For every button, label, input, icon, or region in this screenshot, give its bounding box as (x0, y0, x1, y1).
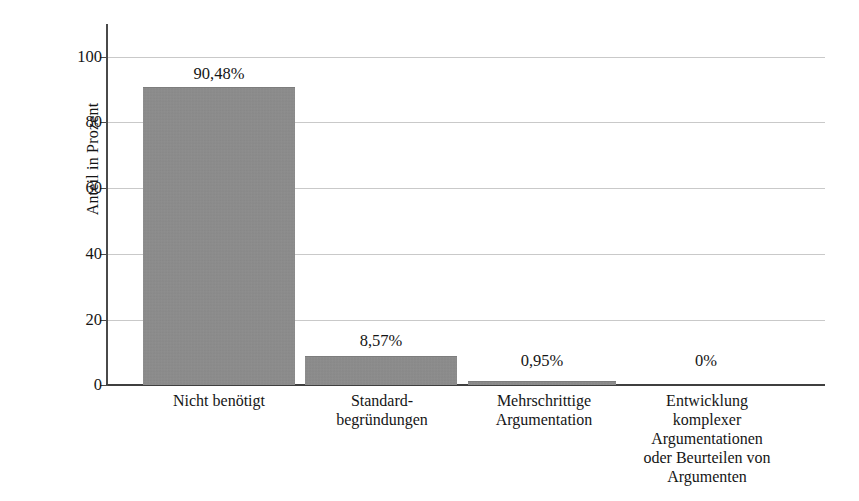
y-tick-label-40: 40 (56, 246, 102, 263)
value-label-nicht-benoetigt: 90,48% (143, 66, 295, 83)
x-category-line: komplexer (618, 411, 796, 430)
x-category-line: Mehrschrittige (458, 392, 630, 411)
x-category-line: Argumentation (458, 411, 630, 430)
value-label-standardbegruendungen: 8,57% (305, 333, 457, 350)
y-tick-label-60: 60 (56, 180, 102, 197)
bar-nicht-benoetigt[interactable] (143, 87, 295, 385)
y-tick-label-20: 20 (56, 312, 102, 329)
bar-chart: Anteil in Prozent 100 80 60 40 20 0 90,4… (0, 0, 859, 501)
y-tick-label-100: 100 (56, 49, 102, 66)
bar-mehrschrittige-argumentation[interactable] (468, 381, 616, 385)
x-category-line: oder Beurteilen von (618, 449, 796, 468)
y-tick-label-80: 80 (56, 114, 102, 131)
gridline-100 (108, 57, 825, 58)
x-category-label-0: Nicht benötigt (133, 392, 305, 411)
x-category-line: Standard- (296, 392, 468, 411)
x-category-label-1: Standard- begründungen (296, 392, 468, 430)
x-category-label-3: Entwicklung komplexer Argumentationen od… (618, 392, 796, 486)
y-axis-title: Anteil in Prozent (84, 79, 102, 239)
bar-standardbegruendungen[interactable] (305, 356, 457, 385)
x-category-line: Nicht benötigt (133, 392, 305, 411)
y-tick-label-0: 0 (56, 377, 102, 394)
plot-area (108, 57, 825, 385)
value-label-entwicklung-komplexer-argumentationen: 0% (630, 353, 782, 370)
x-category-line: Argumentationen (618, 430, 796, 449)
x-category-line: Argumenten (618, 468, 796, 487)
value-label-mehrschrittige-argumentation: 0,95% (468, 353, 616, 370)
x-category-line: Entwicklung (618, 392, 796, 411)
x-category-label-2: Mehrschrittige Argumentation (458, 392, 630, 430)
x-category-line: begründungen (296, 411, 468, 430)
